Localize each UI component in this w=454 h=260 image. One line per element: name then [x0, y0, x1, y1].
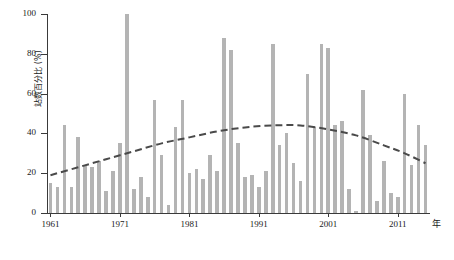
plot-area — [47, 14, 429, 213]
y-tick-label: 60 — [10, 89, 36, 98]
bar — [264, 171, 268, 213]
x-tick-label: 2001 — [308, 219, 348, 229]
bar-chart: 站数百分比 (%) 020406080100 19611971198119912… — [0, 0, 454, 260]
bar — [222, 38, 226, 213]
bar — [174, 127, 178, 213]
bar — [195, 169, 199, 213]
bar — [285, 133, 289, 213]
bar — [215, 171, 219, 213]
x-tick-mark — [50, 213, 51, 217]
x-tick-mark — [189, 213, 190, 217]
x-tick-mark — [120, 213, 121, 217]
bar — [76, 137, 80, 213]
bar — [111, 171, 115, 213]
bar — [410, 165, 414, 213]
x-tick-label: 1971 — [100, 219, 140, 229]
bar — [368, 135, 372, 213]
bar — [250, 175, 254, 213]
bar — [118, 143, 122, 213]
bar — [153, 100, 157, 213]
bar — [70, 187, 74, 213]
x-tick-label: 2011 — [378, 219, 418, 229]
bar — [160, 155, 164, 213]
bar — [49, 183, 53, 213]
bar — [167, 205, 171, 213]
bar — [326, 48, 330, 213]
x-tick-mark — [328, 213, 329, 217]
bar — [375, 201, 379, 213]
bar — [340, 121, 344, 213]
bar — [90, 167, 94, 213]
bar — [278, 145, 282, 213]
bar — [104, 191, 108, 213]
bar — [125, 14, 129, 213]
bar — [424, 145, 428, 213]
bar — [132, 189, 136, 213]
bar — [181, 100, 185, 213]
x-axis-line — [47, 213, 430, 214]
bar — [139, 177, 143, 213]
bar — [97, 161, 101, 213]
x-axis-title: 年 — [432, 219, 441, 229]
bar — [333, 125, 337, 213]
bar — [354, 211, 358, 213]
bar — [229, 50, 233, 213]
x-tick-label: 1991 — [239, 219, 279, 229]
x-tick-label: 1981 — [169, 219, 209, 229]
bar — [236, 143, 240, 213]
bar — [382, 161, 386, 213]
x-tick-mark — [259, 213, 260, 217]
y-tick-label: 80 — [10, 49, 36, 58]
y-tick-label: 20 — [10, 168, 36, 177]
bar — [56, 187, 60, 213]
bar — [306, 74, 310, 213]
bar — [243, 177, 247, 213]
bar — [63, 125, 67, 213]
bar — [257, 187, 261, 213]
y-tick-label: 0 — [10, 208, 36, 217]
bar — [146, 197, 150, 213]
y-tick-label: 100 — [10, 9, 36, 18]
bar — [389, 193, 393, 213]
bar — [188, 173, 192, 213]
bar — [313, 127, 317, 213]
y-tick-label: 40 — [10, 128, 36, 137]
bar — [299, 181, 303, 213]
bar — [417, 125, 421, 213]
bar — [361, 90, 365, 213]
bar — [201, 179, 205, 213]
bar — [320, 44, 324, 213]
bar — [208, 155, 212, 213]
bar — [347, 189, 351, 213]
bars-layer — [47, 14, 429, 213]
bar — [403, 94, 407, 213]
bar — [292, 163, 296, 213]
bar — [271, 44, 275, 213]
bar — [396, 197, 400, 213]
x-tick-mark — [398, 213, 399, 217]
bar — [83, 165, 87, 213]
x-tick-label: 1961 — [30, 219, 70, 229]
